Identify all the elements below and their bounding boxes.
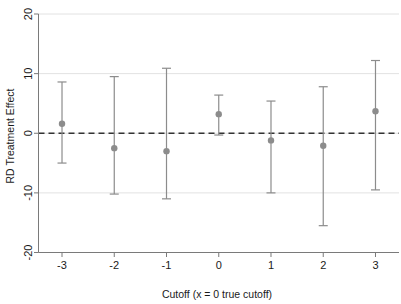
y-tick-label: 0 <box>22 130 34 136</box>
point-marker <box>372 108 378 114</box>
y-tick-label: 20 <box>22 8 34 20</box>
y-tick-label: 10 <box>22 68 34 80</box>
chart-canvas: 20100-10-20 -3-2-10123 Cutoff (x = 0 tru… <box>0 0 401 304</box>
point-marker <box>111 145 117 151</box>
x-tick-label: -3 <box>57 259 67 271</box>
x-tick-label: 0 <box>216 259 222 271</box>
x-tick-label: 2 <box>320 259 326 271</box>
point-marker <box>163 148 169 154</box>
y-axis-title: RD Treatment Effect <box>4 88 16 183</box>
y-tick-label: -10 <box>22 185 34 201</box>
point-marker <box>320 143 326 149</box>
x-axis-title: Cutoff (x = 0 true cutoff) <box>162 288 272 300</box>
point-marker <box>59 121 65 127</box>
point-marker <box>216 111 222 117</box>
x-tick-label: 1 <box>268 259 274 271</box>
x-tick-label: -1 <box>162 259 172 271</box>
x-tick-label: 3 <box>372 259 378 271</box>
point-marker <box>268 137 274 143</box>
rd-treatment-effect-chart: 20100-10-20 -3-2-10123 Cutoff (x = 0 tru… <box>0 0 401 304</box>
x-tick-label: -2 <box>109 259 119 271</box>
y-tick-label: -20 <box>22 245 34 261</box>
